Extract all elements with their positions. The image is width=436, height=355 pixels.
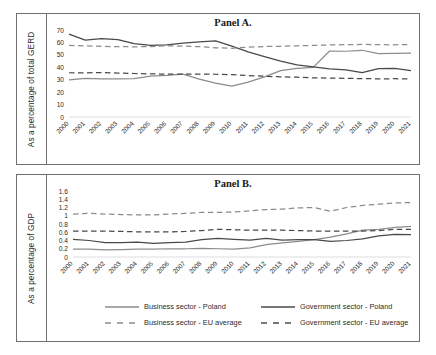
legend-item[interactable]: Business sector - Poland [105,302,261,311]
svg-text:1: 1 [64,212,68,219]
svg-text:2011: 2011 [234,119,249,134]
legend-item-label: Business sector - EU average [144,318,242,327]
svg-text:60: 60 [57,39,65,46]
svg-text:2008: 2008 [185,119,200,134]
svg-text:2005: 2005 [136,119,151,134]
panel-a-y-axis-label: As a percentage of total GERD [27,31,36,146]
svg-text:30: 30 [57,76,65,83]
legend-swatch-dashed-line-icon [261,319,295,327]
legend-swatch-solid-line-icon [105,303,139,311]
chart-legend: Business sector - PolandGovernment secto… [77,298,417,338]
panel-b-title: Panel B. [47,178,419,189]
panel-a: As a percentage of total GERD Panel A. 0… [16,13,420,165]
svg-text:2002: 2002 [91,259,106,274]
svg-text:2003: 2003 [104,119,119,134]
svg-text:2002: 2002 [87,119,102,134]
panel-b-y-axis-title: As a percentage of GDP [17,175,47,341]
panel-b-y-axis-label: As a percentage of GDP [27,213,36,304]
svg-text:2016: 2016 [316,259,331,274]
svg-text:2016: 2016 [315,119,330,134]
svg-text:0.8: 0.8 [59,221,68,228]
svg-text:2000: 2000 [59,259,74,274]
svg-text:2004: 2004 [123,259,138,274]
svg-text:2005: 2005 [139,259,154,274]
svg-text:2012: 2012 [250,119,265,134]
legend-item[interactable]: Government sector - EU average [261,318,417,327]
svg-text:2001: 2001 [71,119,86,134]
legend-item[interactable]: Business sector - EU average [105,318,261,327]
svg-text:2010: 2010 [218,119,233,134]
svg-text:10: 10 [57,101,65,108]
svg-text:2013: 2013 [268,259,283,274]
svg-text:2004: 2004 [120,119,135,134]
legend-swatch-dashed-line-icon [105,319,139,327]
svg-text:2009: 2009 [204,259,219,274]
svg-text:2019: 2019 [365,259,380,274]
svg-text:0.2: 0.2 [59,245,68,252]
figure-container: As a percentage of total GERD Panel A. 0… [0,0,436,355]
svg-text:2017: 2017 [332,119,347,134]
svg-text:2013: 2013 [266,119,281,134]
legend-item[interactable]: Government sector - Poland [261,302,417,311]
svg-text:2010: 2010 [220,259,235,274]
svg-text:2019: 2019 [364,119,379,134]
svg-text:2021: 2021 [397,119,412,134]
legend-item-label: Business sector - Poland [144,302,226,311]
svg-text:2015: 2015 [300,259,315,274]
panel-a-y-axis-title: As a percentage of total GERD [17,14,47,164]
svg-text:2020: 2020 [381,259,396,274]
svg-text:2018: 2018 [348,259,363,274]
legend-item-label: Government sector - EU average [300,318,408,327]
svg-text:2006: 2006 [152,119,167,134]
svg-text:40: 40 [57,64,65,71]
svg-text:2020: 2020 [380,119,395,134]
svg-text:20: 20 [57,89,65,96]
svg-text:2003: 2003 [107,259,122,274]
panel-b-chart: 00.20.40.60.811.21.41.620002001200220032… [47,175,419,297]
svg-text:2006: 2006 [155,259,170,274]
svg-text:50: 50 [57,51,65,58]
svg-text:1.2: 1.2 [59,204,68,211]
legend-item-label: Government sector - Poland [300,302,392,311]
svg-text:2007: 2007 [171,259,186,274]
legend-swatch-solid-line-icon [261,303,295,311]
svg-text:2011: 2011 [236,259,251,274]
panel-a-title: Panel A. [47,17,419,28]
svg-text:2000: 2000 [55,119,70,134]
svg-text:2007: 2007 [169,119,184,134]
svg-text:2014: 2014 [284,259,299,274]
panel-a-plot-area: Panel A. 0102030405060702000200120022003… [47,14,419,164]
svg-text:1.4: 1.4 [59,196,68,203]
svg-text:2009: 2009 [201,119,216,134]
panel-b-plot-area: Panel B. 00.20.40.60.811.21.41.620002001… [47,175,419,341]
svg-text:2014: 2014 [283,119,298,134]
svg-text:2021: 2021 [397,259,412,274]
svg-text:2015: 2015 [299,119,314,134]
svg-text:0.6: 0.6 [59,229,68,236]
svg-text:2001: 2001 [75,259,90,274]
panel-b: As a percentage of GDP Panel B. 00.20.40… [16,174,420,342]
svg-text:0.4: 0.4 [59,237,68,244]
svg-text:2018: 2018 [348,119,363,134]
svg-text:2012: 2012 [252,259,267,274]
svg-text:2008: 2008 [187,259,202,274]
panel-a-chart: 0102030405060702000200120022003200420052… [47,14,419,164]
svg-text:2017: 2017 [332,259,347,274]
